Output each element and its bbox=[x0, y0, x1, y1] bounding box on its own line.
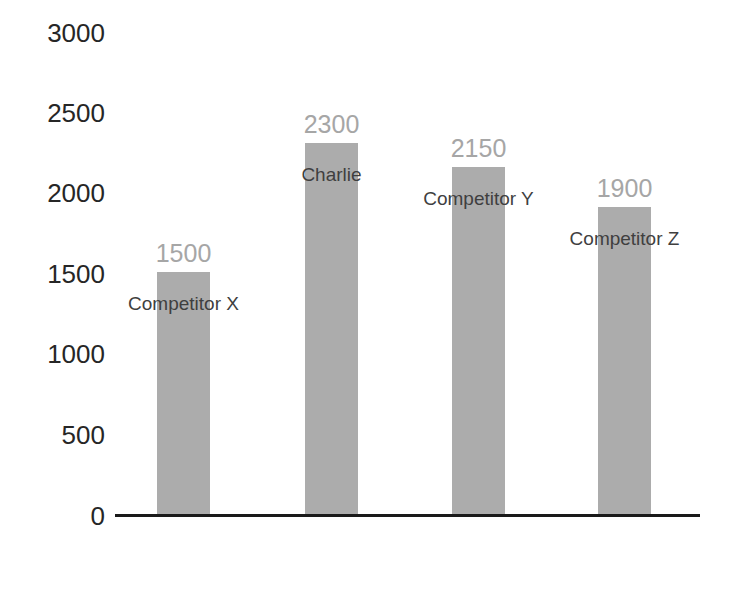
bar-group-competitor-x[interactable]: 1500 Competitor X bbox=[157, 272, 210, 514]
bar-rect[interactable] bbox=[452, 167, 505, 514]
category-label: Competitor Z bbox=[552, 229, 697, 248]
plot-area: 1500 Competitor X 2300 Charlie 2150 Comp… bbox=[0, 0, 734, 596]
category-label: Charlie bbox=[259, 165, 404, 184]
bar-group-competitor-y[interactable]: 2150 Competitor Y bbox=[452, 167, 505, 514]
bar-group-charlie[interactable]: 2300 Charlie bbox=[305, 143, 358, 514]
category-axis-line bbox=[115, 514, 700, 517]
bar-value-label: 1900 bbox=[562, 176, 687, 201]
bar-rect[interactable] bbox=[598, 207, 651, 514]
category-label: Competitor X bbox=[111, 294, 256, 313]
bar-chart: 3000 2500 2000 1500 1000 500 0 1500 Comp… bbox=[0, 0, 734, 596]
bar-rect[interactable] bbox=[305, 143, 358, 514]
category-label: Competitor Y bbox=[406, 189, 551, 208]
bar-value-label: 2300 bbox=[269, 112, 394, 137]
bar-value-label: 2150 bbox=[416, 136, 541, 161]
bar-value-label: 1500 bbox=[121, 241, 246, 266]
bar-group-competitor-z[interactable]: 1900 Competitor Z bbox=[598, 207, 651, 514]
